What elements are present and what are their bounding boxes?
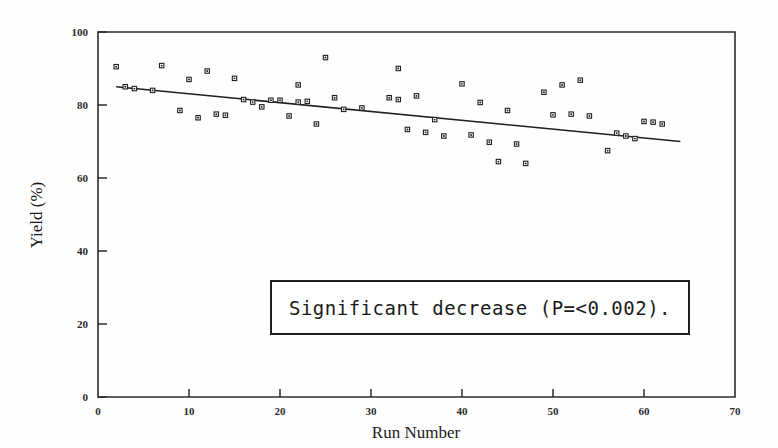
y-tick-label: 60 — [77, 172, 89, 184]
data-point — [223, 113, 227, 117]
data-point — [241, 97, 245, 101]
data-point — [478, 100, 482, 104]
data-point — [514, 142, 518, 146]
data-point — [460, 82, 464, 86]
data-point — [405, 127, 409, 131]
data-point — [651, 120, 655, 124]
data-point — [360, 106, 364, 110]
data-point — [578, 78, 582, 82]
data-point — [642, 119, 646, 123]
data-point — [278, 98, 282, 102]
data-point — [505, 108, 509, 112]
data-point — [387, 96, 391, 100]
data-point — [414, 94, 418, 98]
y-tick-label: 0 — [83, 391, 89, 403]
data-point — [114, 64, 118, 68]
data-point — [196, 116, 200, 120]
data-point — [551, 113, 555, 117]
annotation-text: Significant decrease (P=<0.002). — [289, 297, 671, 319]
data-point — [469, 133, 473, 137]
data-point — [205, 69, 209, 73]
x-tick-label: 70 — [730, 405, 742, 417]
data-point — [314, 122, 318, 126]
data-point — [624, 134, 628, 138]
data-point — [269, 98, 273, 102]
x-axis-title: Run Number — [372, 423, 461, 442]
x-tick-label: 20 — [275, 405, 287, 417]
data-point — [187, 77, 191, 81]
trend-line-group — [116, 87, 680, 142]
data-point — [615, 131, 619, 135]
data-point — [560, 83, 564, 87]
x-tick-label: 10 — [184, 405, 196, 417]
data-point — [260, 105, 264, 109]
data-point — [178, 108, 182, 112]
data-point — [569, 112, 573, 116]
y-axis-ticks — [98, 32, 107, 397]
data-point — [433, 117, 437, 121]
data-point — [396, 66, 400, 70]
data-point — [587, 114, 591, 118]
data-point — [524, 161, 528, 165]
x-tick-label: 50 — [548, 405, 560, 417]
y-axis-tick-labels: 020406080100 — [72, 26, 89, 403]
data-point — [542, 90, 546, 94]
y-tick-label: 100 — [72, 26, 89, 38]
x-tick-label: 40 — [457, 405, 469, 417]
data-point — [251, 100, 255, 104]
x-tick-label: 0 — [95, 405, 101, 417]
data-point — [123, 85, 127, 89]
data-point — [605, 148, 609, 152]
data-point — [342, 107, 346, 111]
data-point — [160, 63, 164, 67]
y-tick-label: 40 — [77, 245, 89, 257]
scatter-plot: 020406080100 010203040506070 Run Number … — [0, 0, 778, 448]
y-tick-label: 80 — [77, 99, 89, 111]
data-point — [442, 134, 446, 138]
data-point — [232, 76, 236, 80]
plot-frame — [98, 32, 735, 397]
annotation-box: Significant decrease (P=<0.002). — [270, 280, 690, 335]
data-point — [296, 100, 300, 104]
data-point — [305, 99, 309, 103]
data-point — [323, 55, 327, 59]
y-tick-label: 20 — [77, 318, 89, 330]
data-point — [296, 83, 300, 87]
data-point — [423, 130, 427, 134]
x-tick-label: 30 — [366, 405, 378, 417]
data-point — [496, 159, 500, 163]
data-point — [150, 88, 154, 92]
data-point — [633, 136, 637, 140]
x-axis-tick-labels: 010203040506070 — [95, 405, 741, 417]
data-point — [132, 86, 136, 90]
x-tick-label: 60 — [639, 405, 651, 417]
data-point — [396, 97, 400, 101]
figure-canvas: 020406080100 010203040506070 Run Number … — [0, 0, 778, 448]
y-axis-title: Yield (%) — [27, 182, 46, 249]
data-point — [332, 96, 336, 100]
data-point — [287, 114, 291, 118]
data-point-markers — [114, 55, 664, 165]
data-point — [214, 112, 218, 116]
data-point — [487, 140, 491, 144]
x-axis-ticks — [189, 389, 644, 397]
data-point — [660, 122, 664, 126]
